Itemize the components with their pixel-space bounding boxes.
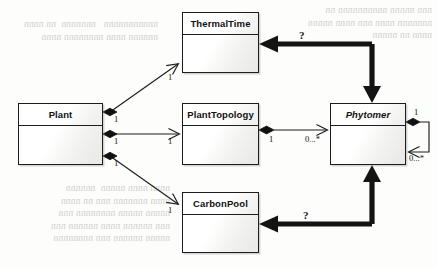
class-box-plant[interactable]: Plant	[18, 103, 103, 165]
bold-link-label-carbonpool: ?	[303, 209, 309, 221]
class-name-plant: Plant	[19, 104, 102, 126]
assoc-plant-thermaltime	[103, 64, 178, 116]
bold-link-label-thermaltime: ?	[299, 29, 305, 41]
bold-link-phytomer-carbonpool	[259, 165, 381, 233]
class-name-carbonpool: CarbonPool	[183, 193, 258, 215]
multiplicity-plant-planttopology-source: 1	[114, 136, 118, 146]
multiplicity-planttopology-phytomer-target: 0...*	[305, 134, 320, 144]
multiplicity-plant-thermaltime-target: 1	[168, 72, 172, 82]
class-box-planttopology[interactable]: PlantTopology	[182, 103, 259, 165]
class-box-thermaltime[interactable]: ThermalTime	[182, 12, 259, 73]
class-body-planttopology	[183, 126, 258, 164]
class-name-planttopology: PlantTopology	[183, 104, 258, 126]
multiplicity-phytomer-self-target: 0...*	[409, 153, 424, 163]
assoc-planttopology-phytomer	[259, 126, 327, 134]
multiplicity-phytomer-self-source: 1	[414, 107, 418, 117]
multiplicity-plant-planttopology-target: 1	[168, 136, 172, 146]
background-bleed-text-left: nnnnnnnnnnn nnnnnnn nn nnnn nnnnnn nnnn …	[8, 18, 158, 43]
class-body-plant	[19, 126, 102, 164]
class-box-phytomer[interactable]: Phytomer	[330, 103, 406, 165]
class-box-carbonpool[interactable]: CarbonPool	[182, 192, 259, 253]
class-name-thermaltime: ThermalTime	[183, 13, 258, 35]
class-body-carbonpool	[183, 215, 258, 252]
background-bleed-text-mid: nnnn nnnn nnnnn nnnnnn nnnn nnnnnnn nnn …	[10, 182, 170, 245]
background-bleed-text-right: nnn nnnnn nnnnnnnnnn nn nnnnnnn nnnn nnn…	[282, 4, 432, 42]
multiplicity-plant-carbonpool-source: 1	[114, 158, 118, 168]
multiplicity-plant-carbonpool-target: 1	[168, 205, 172, 215]
uml-diagram-canvas: nnnnnnnnnnn nnnnnnn nn nnnn nnnnnn nnnn …	[0, 0, 437, 267]
bold-link-phytomer-thermaltime	[259, 36, 381, 104]
assoc-phytomer-self	[406, 118, 429, 152]
class-body-phytomer	[331, 126, 405, 164]
multiplicity-planttopology-phytomer-source: 1	[269, 134, 273, 144]
class-name-phytomer: Phytomer	[331, 104, 405, 126]
multiplicity-plant-thermaltime-source: 1	[114, 114, 118, 124]
class-body-thermaltime	[183, 35, 258, 72]
